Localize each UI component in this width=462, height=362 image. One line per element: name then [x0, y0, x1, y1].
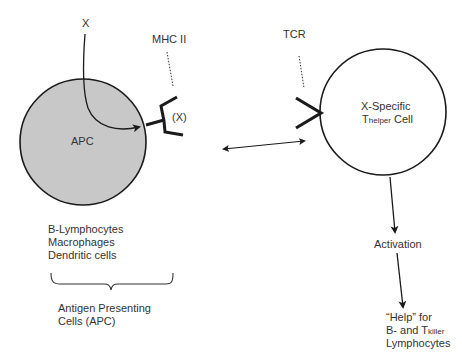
help-text-line3: Lymphocytes	[386, 337, 450, 350]
help-text-line2: B- and Tkiller	[386, 324, 444, 338]
tcr-receptor	[296, 98, 321, 128]
mhc-ii-pointer	[167, 52, 173, 86]
help-arrow	[397, 253, 403, 307]
apc-group-brace	[51, 273, 173, 290]
mhc-ii-label: MHC II	[152, 33, 186, 46]
tcr-pointer	[299, 56, 304, 88]
helper-subscript: helper	[369, 116, 391, 125]
tcr-label: TCR	[283, 28, 306, 41]
apc-label: APC	[71, 135, 94, 148]
activation-label: Activation	[374, 238, 422, 251]
apc-type-dendritic-cells: Dendritic cells	[48, 249, 116, 262]
apc-group-label-line2: Cells (APC)	[58, 315, 115, 328]
helper-suffix: Cell	[391, 113, 413, 125]
activation-arrow	[390, 177, 395, 232]
antigen-label: X	[82, 17, 89, 30]
killer-subscript: killer	[428, 327, 444, 336]
help-text-line1: “Help” for	[386, 311, 432, 324]
apc-group-label-line1: Antigen Presenting	[58, 302, 151, 315]
helper-cell-label-line2: Thelper Cell	[362, 113, 413, 127]
interaction-arrow	[224, 141, 304, 149]
bound-antigen-label: (X)	[172, 111, 187, 124]
helper-cell-label-line1: X-Specific	[361, 100, 411, 113]
help-line2-prefix: B- and T	[386, 324, 428, 336]
apc-type-macrophages: Macrophages	[48, 236, 115, 249]
apc-type-b-lymphocytes: B-Lymphocytes	[48, 223, 123, 236]
helper-prefix: T	[362, 113, 369, 125]
